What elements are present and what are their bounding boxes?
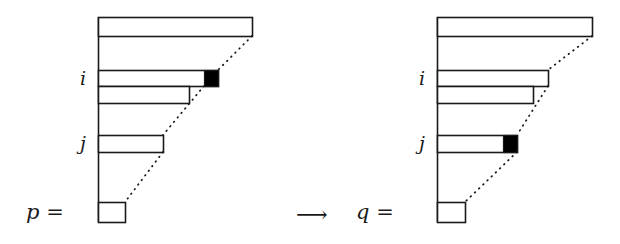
bar-q-row-i: [438, 71, 549, 87]
bar-outline: [99, 136, 164, 153]
bar-p-row-j: [99, 136, 164, 153]
bar-outline: [99, 203, 126, 223]
row-label-i-p: i: [80, 67, 86, 89]
row-label-i-q: i: [419, 67, 425, 89]
row-label-j-p: j: [80, 132, 86, 154]
marked-cell: [205, 71, 219, 87]
bar-outline: [438, 18, 593, 37]
bar-outline: [438, 203, 466, 223]
variable-name-p: p: [26, 200, 39, 224]
marked-cell: [504, 136, 518, 153]
bar-outline: [438, 87, 534, 104]
bar-p-row-below-i: [99, 87, 190, 104]
diagram-p: [99, 17, 253, 223]
figure-root: ijp =ijq =⟶: [0, 0, 620, 244]
diagram-q: [438, 17, 593, 223]
dotted-boundary-3: [125, 152, 163, 202]
dotted-boundary-3: [465, 152, 517, 202]
equals-label-q: q =: [356, 200, 394, 224]
bar-p-row-top: [99, 18, 253, 37]
bar-q-row-bottom: [438, 203, 466, 223]
row-label-j-q: j: [419, 132, 425, 154]
bar-outline: [99, 87, 190, 104]
transform-arrow-icon: ⟶: [296, 202, 328, 227]
bar-outline: [99, 71, 219, 87]
dotted-boundary-1: [548, 36, 592, 70]
bar-q-row-j: [438, 136, 518, 153]
variable-name-q: q: [356, 200, 369, 224]
equals-label-p: p =: [26, 200, 64, 224]
bar-p-row-i: [99, 71, 219, 87]
bar-q-row-below-i: [438, 87, 534, 104]
bar-p-row-bottom: [99, 203, 126, 223]
bar-q-row-top: [438, 18, 593, 37]
dotted-boundary-1: [218, 36, 252, 70]
bar-outline: [438, 71, 549, 87]
bar-outline: [99, 18, 253, 37]
